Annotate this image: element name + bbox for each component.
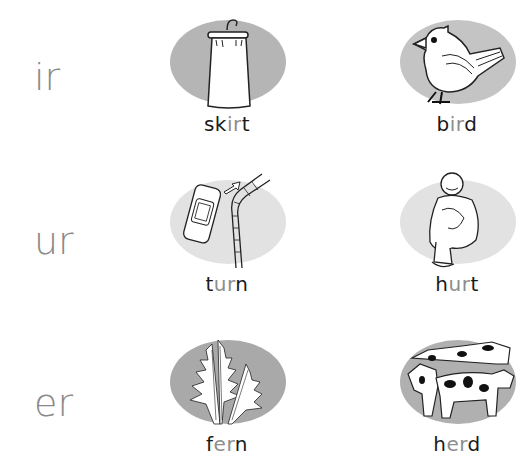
word-highlight: ir	[227, 112, 242, 136]
word-highlight: er	[446, 432, 467, 456]
word-turn: turn	[162, 274, 292, 294]
word-prefix: h	[433, 432, 446, 456]
card-herd: herd	[392, 340, 522, 476]
word-highlight: ur	[214, 272, 236, 296]
bird-icon	[392, 10, 522, 114]
word-suffix: n	[235, 272, 248, 296]
word-prefix: b	[437, 112, 450, 136]
word-prefix: t	[205, 272, 213, 296]
word-bird: bird	[392, 114, 522, 134]
word-prefix: f	[206, 432, 214, 456]
word-herd: herd	[392, 434, 522, 454]
phonics-label-ur: ur	[34, 222, 74, 260]
card-fern: fern	[162, 340, 292, 476]
card-hurt: hurt	[392, 180, 522, 320]
word-fern: fern	[162, 434, 292, 454]
word-suffix: n	[235, 432, 248, 456]
word-highlight: ir	[450, 112, 464, 136]
fern-icon	[162, 330, 292, 434]
word-skirt: skirt	[162, 114, 292, 134]
card-skirt: skirt	[162, 20, 292, 160]
phonics-label-ir: ir	[34, 58, 60, 96]
card-turn: turn	[162, 180, 292, 320]
word-suffix: d	[464, 112, 477, 136]
car-turn-icon	[162, 170, 292, 274]
word-hurt: hurt	[392, 274, 522, 294]
skirt-icon	[162, 10, 292, 114]
word-suffix: t	[470, 272, 478, 296]
phonics-label-er: er	[34, 384, 73, 422]
card-bird: bird	[392, 20, 522, 160]
word-highlight: ur	[448, 272, 470, 296]
word-suffix: t	[242, 112, 250, 136]
word-suffix: d	[468, 432, 481, 456]
cow-herd-icon	[392, 330, 522, 434]
word-prefix: h	[435, 272, 448, 296]
word-prefix: sk	[204, 112, 227, 136]
hurt-child-icon	[392, 170, 522, 274]
word-highlight: er	[214, 432, 235, 456]
